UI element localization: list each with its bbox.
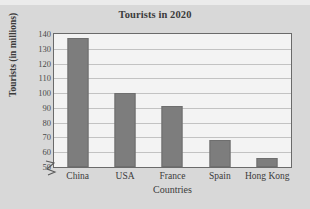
x-axis-label: Countries	[53, 184, 292, 195]
y-tick-label: 60	[24, 148, 51, 157]
y-tick-label: 130	[24, 45, 51, 54]
y-tick-label: 90	[24, 104, 51, 113]
y-tick-label: 70	[24, 133, 51, 142]
bar-slot	[196, 34, 243, 167]
y-axis-label: Tourists (in millions)	[8, 0, 18, 120]
bar-series	[54, 34, 291, 167]
y-tick-label: 120	[24, 59, 51, 68]
bar	[162, 106, 183, 167]
bar	[115, 93, 136, 167]
bar-slot	[101, 34, 148, 167]
bar-slot	[244, 34, 291, 167]
bar	[257, 158, 278, 167]
bar	[209, 140, 230, 167]
chart-title: Tourists in 2020	[0, 9, 310, 20]
y-tick-label: 140	[24, 30, 51, 39]
bar	[67, 38, 88, 167]
y-axis-tick-labels: 5060708090100110120130140	[24, 33, 51, 168]
bar-slot	[54, 34, 101, 167]
x-tick-label: Hong Kong	[237, 171, 297, 181]
y-tick-label: 110	[24, 74, 51, 83]
bar-chart-figure: Tourists in 2020 Tourists (in millions) …	[0, 0, 310, 209]
y-tick-label: 100	[24, 89, 51, 98]
bar-slot	[149, 34, 196, 167]
x-axis-tick-labels: ChinaUSAFranceSpainHong Kong	[54, 171, 291, 184]
y-tick-label: 80	[24, 118, 51, 127]
